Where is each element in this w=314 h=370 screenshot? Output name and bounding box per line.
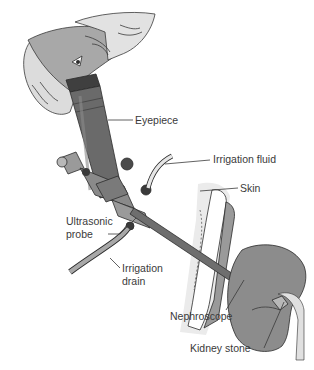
label-nephroscope: Nephroscope [170, 310, 233, 322]
label-ultrasonic-probe-2: probe [66, 228, 93, 240]
label-kidney-stone: Kidney stone [190, 342, 251, 354]
label-ultrasonic-probe-1: Ultrasonic [66, 215, 113, 227]
irrigation-fluid-tube [148, 156, 172, 188]
label-irrigation-drain-1: Irrigation [122, 262, 163, 274]
label-irrigation-drain-2: drain [122, 275, 146, 287]
label-eyepiece: Eyepiece [135, 114, 178, 126]
nephrolithotomy-diagram: Eyepiece Irrigation fluid Skin Ultrasoni… [0, 0, 314, 370]
label-skin: Skin [240, 182, 261, 194]
label-irrigation-fluid: Irrigation fluid [213, 153, 276, 165]
